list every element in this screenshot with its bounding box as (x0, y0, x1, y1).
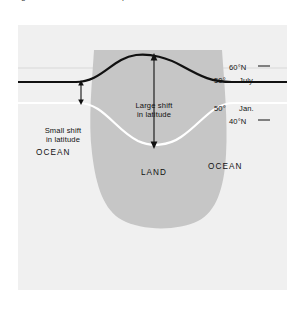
ocean-left-area-label: OCEAN (36, 148, 92, 158)
small-shift-line-1: Small shift (24, 126, 102, 135)
july-isotherm-label: 50°July (214, 76, 253, 85)
july-degree-value: 50° (214, 76, 232, 85)
diagram-panel: Small shift in latitude Large shift in l… (18, 25, 287, 290)
july-month-name: July (239, 76, 253, 85)
figure-caption-number: Figure 3.9 (14, 0, 52, 1)
small-shift-label: Small shift in latitude (24, 126, 102, 145)
large-shift-label: Large shift in latitude (115, 101, 193, 120)
figure-caption-text: Comparison of the seasonal shift of isot… (104, 0, 304, 1)
ocean-right-area-label: OCEAN (208, 162, 264, 172)
figure-caption: Figure 3.9 Comparison of the seasonal sh… (0, 0, 304, 9)
january-degree-value: 50° (214, 104, 232, 113)
january-month-name: Jan. (239, 104, 254, 113)
small-shift-line-2: in latitude (24, 135, 102, 144)
latitude-40n-label: 40°N (229, 117, 246, 126)
january-isotherm-label: 50°Jan. (214, 104, 254, 113)
small-shift-arrow (78, 80, 84, 105)
large-shift-line-1: Large shift (115, 101, 193, 110)
large-shift-line-2: in latitude (115, 110, 193, 119)
latitude-60n-label: 60°N (229, 63, 246, 72)
land-area-label: LAND (126, 168, 182, 178)
